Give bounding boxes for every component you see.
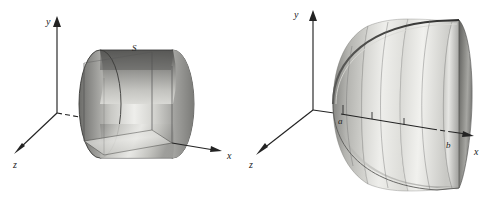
right-y-axis-arrowhead bbox=[309, 10, 317, 21]
left-z-axis: z bbox=[12, 113, 57, 170]
x-axis-arrowhead bbox=[210, 146, 222, 152]
left-y-axis-label: y bbox=[45, 16, 51, 27]
right-x-axis-label: x bbox=[473, 146, 479, 157]
surface-label-s: S bbox=[132, 43, 137, 53]
z-axis-arrowhead bbox=[14, 143, 25, 154]
left-y-axis: y bbox=[45, 16, 61, 113]
revolution-end-cap bbox=[459, 20, 472, 188]
left-panel-cylinder-figure: z bbox=[12, 16, 232, 170]
right-z-axis-arrowhead bbox=[256, 143, 268, 155]
right-y-axis: y bbox=[293, 9, 317, 110]
left-x-axis-label: x bbox=[226, 150, 232, 161]
right-z-axis-label: z bbox=[248, 159, 253, 170]
solid-of-revolution bbox=[333, 19, 472, 191]
left-z-axis-label: z bbox=[12, 159, 17, 170]
bound-label-a: a bbox=[338, 116, 343, 126]
cylinder-inner-shadow bbox=[100, 50, 173, 70]
y-axis-arrowhead bbox=[53, 16, 61, 27]
bound-label-b: b bbox=[446, 140, 451, 150]
diagram-canvas: z bbox=[0, 0, 492, 206]
right-y-axis-label: y bbox=[293, 9, 299, 20]
right-panel-revolution-figure: z bbox=[248, 9, 479, 191]
right-z-axis: z bbox=[248, 110, 313, 170]
